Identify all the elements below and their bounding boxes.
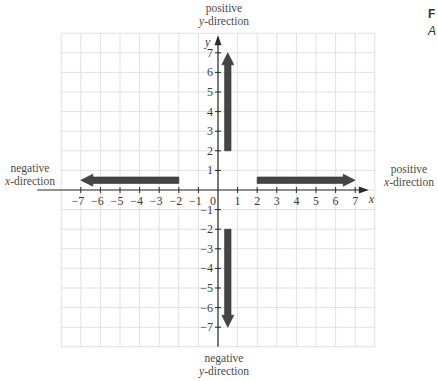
x-axis-arrow-icon	[359, 187, 369, 194]
label-line1: positive	[377, 163, 438, 176]
cropped-letter-top: F	[428, 6, 436, 23]
x-tick-label: 3	[274, 194, 280, 208]
label-rest: -direction	[204, 15, 249, 27]
x-tick-label: 5	[313, 194, 319, 208]
x-tick-label: −3	[150, 194, 163, 208]
arrow-negative-x-icon	[81, 174, 179, 186]
arrow-negative-y-icon	[222, 229, 234, 327]
x-tick-label: −5	[111, 194, 124, 208]
y-tick-label: −1	[200, 203, 213, 217]
y-axis-arrow-icon	[215, 35, 222, 45]
y-tick-label: −6	[200, 301, 213, 315]
cropped-letter-bottom: A	[428, 23, 436, 40]
y-tick-label: 5	[207, 85, 213, 99]
y-tick-label: −7	[200, 320, 213, 334]
x-tick-label: −4	[130, 194, 143, 208]
label-line1: negative	[194, 352, 254, 365]
y-tick-label: 1	[207, 163, 213, 177]
y-tick-label: 4	[207, 105, 213, 119]
x-axis-label: x	[368, 192, 375, 206]
label-line1: positive	[194, 2, 254, 15]
label-rest: -direction	[10, 175, 55, 187]
y-tick-label: 3	[207, 124, 213, 138]
x-tick-label: 4	[293, 194, 299, 208]
positive-x-direction-label: positive x-direction	[377, 163, 438, 189]
y-tick-label: 6	[207, 65, 213, 79]
label-rest: -direction	[204, 365, 249, 377]
y-tick-label: −4	[200, 261, 213, 275]
x-tick-label: −7	[71, 194, 84, 208]
x-tick-label: 2	[254, 194, 260, 208]
negative-x-direction-label: negative x-direction	[0, 162, 60, 188]
label-line1: negative	[0, 162, 60, 175]
negative-y-direction-label: negative y-direction	[194, 352, 254, 378]
arrow-positive-x-icon	[257, 174, 355, 186]
x-tick-label: 6	[333, 194, 339, 208]
arrow-positive-y-icon	[222, 53, 234, 151]
label-rest: -direction	[389, 176, 434, 188]
positive-y-direction-label: positive y-direction	[194, 2, 254, 28]
x-tick-label: −2	[169, 194, 182, 208]
y-tick-label: 2	[207, 144, 213, 158]
y-tick-label: −3	[200, 242, 213, 256]
y-tick-label: 7	[207, 46, 213, 60]
x-tick-label: −6	[91, 194, 104, 208]
y-tick-label: −5	[200, 281, 213, 295]
cropped-margin-text: F A	[428, 6, 436, 40]
x-tick-label: 7	[352, 194, 358, 208]
x-tick-label: 1	[235, 194, 241, 208]
y-tick-label: −2	[200, 222, 213, 236]
